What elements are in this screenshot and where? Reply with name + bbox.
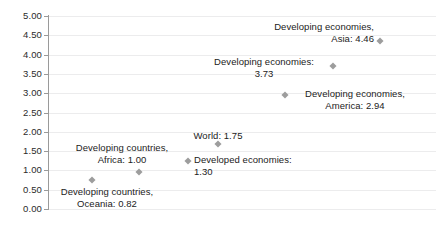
y-tick-label: 1.50: [0, 146, 42, 156]
y-tick-label: 3.50: [0, 69, 42, 79]
scatter-chart: 5.004.504.003.503.002.502.001.501.000.50…: [0, 0, 445, 231]
y-tick-label: 2.00: [0, 127, 42, 137]
y-tick-mark: [44, 93, 48, 94]
y-tick-label-text: 0.50: [0, 185, 42, 195]
y-tick-label-text: 1.50: [0, 146, 42, 156]
y-axis-line: [48, 15, 49, 210]
y-tick-label: 3.00: [0, 88, 42, 98]
y-tick-label-text: 3.00: [0, 88, 42, 98]
data-point-marker: [329, 62, 336, 69]
gridline: [49, 209, 436, 210]
data-point-label: Developing countries, Oceania: 0.82: [46, 186, 168, 209]
y-tick-mark: [44, 151, 48, 152]
y-tick-label: 1.00: [0, 165, 42, 175]
y-tick-label-text: 1.00: [0, 165, 42, 175]
gridline: [49, 35, 436, 36]
y-tick-label-text: 0.00: [0, 204, 42, 214]
y-tick-mark: [44, 16, 48, 17]
gridline: [49, 16, 436, 17]
data-point-label: Developed economies: 1.30: [194, 154, 312, 177]
y-tick-label-text: 4.00: [0, 50, 42, 60]
data-point-marker: [376, 37, 383, 44]
y-tick-label: 5.00: [0, 11, 42, 21]
data-point-label: Developing economies, America: 2.94: [292, 88, 418, 111]
gridline: [49, 113, 436, 114]
y-tick-label: 2.50: [0, 108, 42, 118]
data-point-label: Developing countries, Africa: 1.00: [61, 142, 183, 165]
y-tick-label-text: 4.50: [0, 30, 42, 40]
y-tick-label: 0.00: [0, 204, 42, 214]
data-point-marker: [184, 157, 191, 164]
y-tick-mark: [44, 74, 48, 75]
y-tick-label: 4.50: [0, 30, 42, 40]
y-tick-label-text: 5.00: [0, 11, 42, 21]
data-point-label: World: 1.75: [183, 130, 253, 142]
y-tick-mark: [44, 209, 48, 210]
y-tick-mark: [44, 132, 48, 133]
data-point-label: Developing economies, Asia: 4.46: [248, 21, 374, 44]
data-point-marker: [214, 140, 221, 147]
y-tick-mark: [44, 55, 48, 56]
y-tick-label-text: 2.50: [0, 108, 42, 118]
y-tick-mark: [44, 35, 48, 36]
y-tick-label-text: 2.00: [0, 127, 42, 137]
plot-area: [49, 16, 436, 210]
data-point-marker: [88, 176, 95, 183]
y-tick-label: 0.50: [0, 185, 42, 195]
y-tick-mark: [44, 170, 48, 171]
y-tick-label: 4.00: [0, 50, 42, 60]
data-point-label: Developing economies: 3.73: [202, 56, 326, 79]
y-tick-mark: [44, 113, 48, 114]
y-tick-label-text: 3.50: [0, 69, 42, 79]
